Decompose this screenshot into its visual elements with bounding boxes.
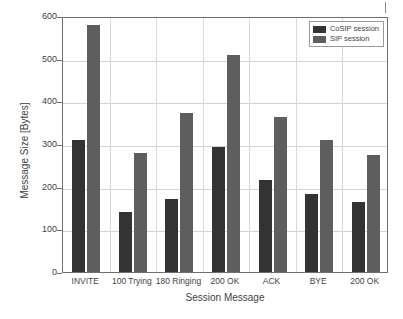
x-axis-title: Session Message — [62, 292, 388, 303]
bar — [305, 194, 318, 272]
legend-label-cosip-session: CoSIP session — [330, 25, 379, 33]
y-tick-mark — [57, 273, 62, 274]
y-tick-label: 100 — [17, 225, 57, 234]
y-tick-label: 600 — [17, 12, 57, 21]
bar — [259, 180, 272, 272]
y-tick-label: 400 — [17, 97, 57, 106]
y-tick-label: 300 — [17, 140, 57, 149]
bar — [367, 155, 380, 272]
bar — [87, 25, 100, 272]
bar — [352, 202, 365, 272]
bar-chart-figure: Message Size [Bytes] 0100200300400500600… — [0, 0, 403, 319]
y-tick-label: 200 — [17, 183, 57, 192]
y-axis-title: Message Size [Bytes] — [19, 66, 30, 236]
legend-item-cosip-session: CoSIP session — [313, 25, 379, 33]
bar — [320, 140, 333, 272]
scan-artifact-mark — [385, 2, 386, 13]
bar — [274, 117, 287, 272]
legend-swatch-cosip-session — [313, 26, 326, 33]
y-tick-label: 500 — [17, 55, 57, 64]
legend-item-sip-session: SIP session — [313, 35, 379, 43]
legend-swatch-sip-session — [313, 36, 326, 43]
bar — [72, 140, 85, 272]
plot-area: CoSIP session SIP session — [62, 17, 388, 273]
bar — [134, 153, 147, 272]
legend-label-sip-session: SIP session — [330, 35, 369, 43]
legend: CoSIP session SIP session — [309, 21, 384, 47]
bar — [227, 55, 240, 272]
bar — [180, 113, 193, 272]
bar — [165, 199, 178, 272]
bars-layer — [63, 18, 387, 272]
bar — [212, 147, 225, 272]
bar — [119, 212, 132, 272]
x-tick-label: 200 OK — [325, 276, 403, 286]
